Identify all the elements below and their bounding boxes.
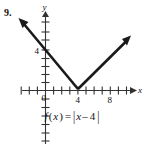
equation-equals: = — [64, 110, 72, 122]
equation-right-bar: | — [96, 108, 100, 124]
equation-left-bar: | — [72, 108, 76, 124]
x-tick-label-8: 8 — [108, 95, 113, 105]
equation-minus: – — [81, 110, 89, 122]
y-tick-label-4: 4 — [35, 46, 40, 56]
y-axis-label: y — [42, 2, 47, 12]
x-axis-arrow-icon — [130, 87, 137, 94]
abs-value-curve — [24, 24, 127, 90]
x-tick-label-0: 0 — [42, 93, 47, 103]
x-axis-label: x — [137, 85, 142, 95]
x-tick-label-4: 4 — [76, 95, 81, 105]
function-equation: f(x)=|x–4| — [0, 110, 145, 122]
equation-inner-const: 4 — [89, 110, 97, 122]
figure-container: 9. — [0, 0, 145, 146]
